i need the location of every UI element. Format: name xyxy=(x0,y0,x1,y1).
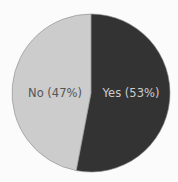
pie-label-yes: Yes (53%) xyxy=(102,86,160,100)
pie-label-no: No (47%) xyxy=(28,86,82,100)
pie-chart: No (47%) Yes (53%) xyxy=(0,0,178,182)
